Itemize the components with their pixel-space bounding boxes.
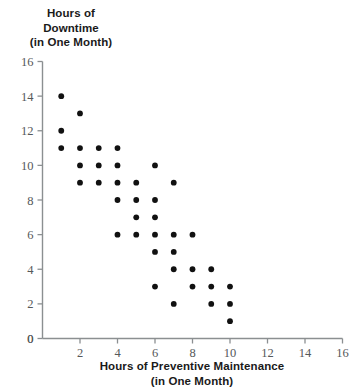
data-point bbox=[115, 232, 121, 238]
data-point bbox=[152, 162, 158, 168]
data-point bbox=[190, 232, 196, 238]
data-point bbox=[190, 284, 196, 290]
data-point bbox=[133, 214, 139, 220]
scatter-chart: Hours of Downtime (in One Month) 0246810… bbox=[0, 0, 364, 392]
x-axis-title-line-2: (in One Month) bbox=[42, 374, 342, 389]
x-tick-label: 16 bbox=[336, 346, 349, 360]
y-axis-ticks: 0246810121416 bbox=[21, 55, 43, 346]
data-point bbox=[171, 266, 177, 272]
x-tick-label: 2 bbox=[77, 346, 83, 360]
data-point bbox=[152, 232, 158, 238]
data-point bbox=[227, 301, 233, 307]
y-tick-label: 12 bbox=[21, 124, 34, 138]
data-point bbox=[152, 249, 158, 255]
data-point bbox=[58, 93, 64, 99]
x-tick-label: 14 bbox=[299, 346, 312, 360]
data-points bbox=[58, 93, 233, 324]
x-tick-label-zero: 0 bbox=[27, 332, 33, 346]
data-point bbox=[115, 162, 121, 168]
x-axis-ticks: 0246810121416 bbox=[27, 332, 349, 360]
x-tick-label: 8 bbox=[189, 346, 195, 360]
data-point bbox=[171, 249, 177, 255]
y-tick-label: 8 bbox=[27, 194, 33, 208]
data-point bbox=[115, 180, 121, 186]
x-tick-label: 6 bbox=[152, 346, 158, 360]
data-point bbox=[171, 232, 177, 238]
data-point bbox=[58, 145, 64, 151]
y-tick-label: 10 bbox=[21, 159, 34, 173]
data-point bbox=[152, 214, 158, 220]
data-point bbox=[171, 301, 177, 307]
data-point bbox=[208, 266, 214, 272]
data-point bbox=[96, 145, 102, 151]
y-tick-label: 2 bbox=[27, 297, 33, 311]
data-point bbox=[227, 318, 233, 324]
data-point bbox=[77, 145, 83, 151]
data-point bbox=[115, 145, 121, 151]
y-tick-label: 6 bbox=[27, 228, 33, 242]
x-axis-title-line-1: Hours of Preventive Maintenance bbox=[100, 360, 285, 372]
data-point bbox=[190, 266, 196, 272]
data-point bbox=[115, 197, 121, 203]
x-tick-label: 4 bbox=[114, 346, 121, 360]
data-point bbox=[77, 111, 83, 117]
y-tick-label: 14 bbox=[21, 90, 34, 104]
data-point bbox=[96, 162, 102, 168]
data-point bbox=[77, 180, 83, 186]
x-axis-title: Hours of Preventive Maintenance (in One … bbox=[42, 359, 342, 389]
data-point bbox=[133, 232, 139, 238]
data-point bbox=[58, 128, 64, 134]
data-point bbox=[152, 197, 158, 203]
data-point bbox=[96, 180, 102, 186]
x-tick-label: 12 bbox=[261, 346, 274, 360]
data-point bbox=[208, 284, 214, 290]
data-point bbox=[227, 284, 233, 290]
plot-area: 0246810121416 0246810121416 bbox=[0, 0, 364, 392]
data-point bbox=[152, 284, 158, 290]
data-point bbox=[133, 180, 139, 186]
y-tick-label: 4 bbox=[27, 263, 34, 277]
axis-group bbox=[43, 62, 343, 339]
data-point bbox=[77, 162, 83, 168]
data-point bbox=[171, 180, 177, 186]
x-tick-label: 10 bbox=[224, 346, 237, 360]
data-point bbox=[208, 301, 214, 307]
y-tick-label: 16 bbox=[21, 55, 34, 69]
data-point bbox=[133, 197, 139, 203]
